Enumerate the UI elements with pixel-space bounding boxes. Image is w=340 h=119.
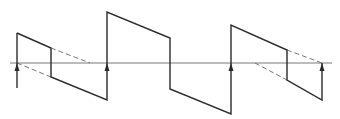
dashed-line — [287, 50, 322, 63]
dashed-line — [17, 63, 51, 77]
up-arrow-icon — [229, 63, 234, 71]
sawtooth-diagram — [0, 0, 340, 119]
dashed-line — [51, 48, 90, 63]
up-arrow-icon — [105, 63, 110, 71]
dashed-line — [255, 63, 287, 80]
up-arrow-icon — [320, 63, 325, 71]
